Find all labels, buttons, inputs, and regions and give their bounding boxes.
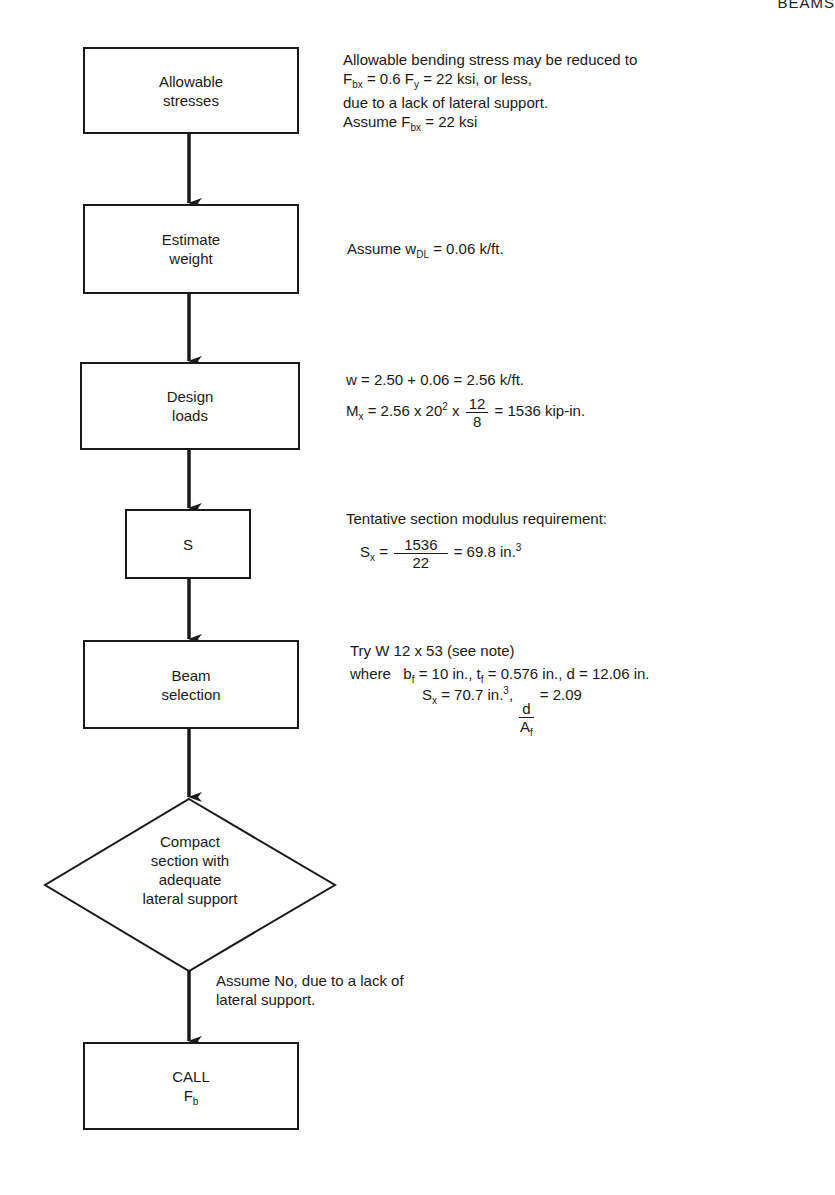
note-estimate-weight: Assume wDL = 0.06 k/ft. bbox=[347, 239, 504, 258]
decision-branch-label: Assume No, due to a lack of lateral supp… bbox=[216, 971, 404, 1009]
note-design-loads: w = 2.50 + 0.06 = 2.56 k/ft. Mx = 2.56 x… bbox=[346, 370, 585, 430]
step-estimate-weight: Estimate weight bbox=[83, 204, 299, 294]
step-call-fb: CALL Fb bbox=[83, 1042, 299, 1130]
step-label: selection bbox=[161, 685, 220, 704]
step-label: Fb bbox=[184, 1086, 199, 1105]
step-allowable-stresses: Allowable stresses bbox=[83, 47, 299, 134]
step-label: stresses bbox=[163, 91, 219, 110]
step-label: CALL bbox=[172, 1067, 210, 1086]
step-label: Estimate bbox=[162, 230, 220, 249]
step-label: Beam bbox=[171, 666, 210, 685]
decision-label: section with bbox=[45, 851, 335, 870]
note-section-modulus: Tentative section modulus requirement: S… bbox=[346, 509, 607, 571]
step-label: Design bbox=[167, 387, 214, 406]
step-s: S bbox=[125, 509, 251, 579]
note-allowable-stresses: Allowable bending stress may be reduced … bbox=[343, 50, 637, 131]
step-label: S bbox=[183, 535, 193, 554]
step-label: weight bbox=[169, 249, 212, 268]
decision-label: lateral support bbox=[45, 889, 335, 908]
decision-label: Compact bbox=[45, 832, 335, 851]
flowchart-connectors bbox=[0, 0, 835, 1195]
step-label: loads bbox=[172, 406, 208, 425]
step-label: Allowable bbox=[159, 72, 223, 91]
step-design-loads: Design loads bbox=[80, 362, 300, 450]
decision-label: adequate bbox=[45, 870, 335, 889]
step-compact-section: Compact section with adequate lateral su… bbox=[45, 832, 335, 908]
step-beam-selection: Beam selection bbox=[83, 640, 299, 729]
note-beam-selection: Try W 12 x 53 (see note) where bf = 10 i… bbox=[350, 641, 650, 735]
